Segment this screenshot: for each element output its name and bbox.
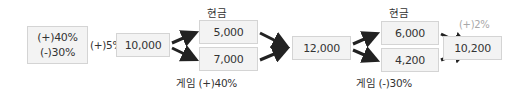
final-total-value: 10,200 xyxy=(454,42,491,55)
stage1-cash-value: 5,000 xyxy=(214,26,244,39)
arrow-icon xyxy=(172,33,195,43)
stage2-game-value: 4,200 xyxy=(395,54,425,67)
stage2-game-box: 4,200 xyxy=(381,48,439,72)
arrow-icon xyxy=(353,50,376,60)
stage1-game-label: 게임 (+)40% xyxy=(176,75,237,90)
stage2-total-value: 12,000 xyxy=(303,42,340,55)
stage2-total-box: 12,000 xyxy=(292,36,351,60)
arrow-icon xyxy=(260,49,286,60)
stage1-cash-label: 현금 xyxy=(207,5,226,20)
rate-up-text: (+)40% xyxy=(37,30,77,45)
arrow-icon xyxy=(260,33,286,46)
stage2-cash-label: 현금 xyxy=(389,5,408,20)
stage1-total-box: 10,000 xyxy=(116,33,170,57)
final-rate-label: (+)2% xyxy=(459,19,490,30)
stage2-cash-value: 6,000 xyxy=(395,27,425,40)
arrow-icon xyxy=(353,34,376,44)
stage1-cash-box: 5,000 xyxy=(199,20,258,44)
stage1-game-value: 7,000 xyxy=(214,53,244,66)
stage2-game-label: 게임 (-)30% xyxy=(356,75,412,90)
stage2-cash-box: 6,000 xyxy=(381,21,439,45)
rate-range-box: (+)40% (-)30% xyxy=(27,26,88,64)
arrow-icon xyxy=(172,48,195,59)
stage1-total-value: 10,000 xyxy=(125,39,162,52)
rate-down-text: (-)30% xyxy=(40,45,75,60)
final-total-box: 10,200 xyxy=(443,36,502,60)
stage1-game-box: 7,000 xyxy=(199,47,258,71)
